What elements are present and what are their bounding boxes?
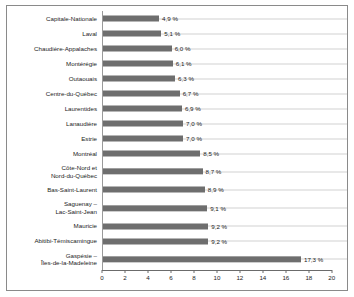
bar-row: Centre-du-Québec6,7 % <box>7 86 347 101</box>
x-axis-tick <box>124 270 125 273</box>
category-label: Laval <box>7 30 102 38</box>
bar-value-label: 8,9 % <box>205 186 224 193</box>
category-label: Capitale-Nationale <box>7 15 102 23</box>
x-axis-tick <box>262 270 263 273</box>
bar-value-label: 6,7 % <box>180 90 199 97</box>
bar <box>103 46 172 52</box>
x-axis-tick <box>216 270 217 273</box>
plot-cell: 6,7 % <box>102 86 347 101</box>
x-axis-tick <box>331 270 332 273</box>
bar <box>103 238 208 244</box>
bar-value-label: 4,9 % <box>159 15 178 22</box>
bar-container: 9,2 % <box>103 219 332 234</box>
category-label: Gaspésie – Îles-de-la-Madeleine <box>7 252 102 267</box>
bar <box>103 61 173 67</box>
plot-cell: 5,1 % <box>102 26 347 41</box>
bar-row: Chaudière-Appalaches6,0 % <box>7 41 347 56</box>
bar-value-label: 7,0 % <box>183 135 202 142</box>
bar-value-label: 7,0 % <box>183 120 202 127</box>
bar-container: 7,0 % <box>103 131 332 146</box>
bar-value-label: 8,7 % <box>203 168 222 175</box>
bar <box>103 151 200 157</box>
x-axis-tick-label: 10 <box>213 274 220 282</box>
x-axis-tick <box>170 270 171 273</box>
plot-rows: Capitale-Nationale4,9 %Laval5,1 %Chaudiè… <box>7 6 347 270</box>
plot-cell: 8,9 % <box>102 182 347 197</box>
plot-cell: 6,0 % <box>102 41 347 56</box>
bar-row: Outaouais6,3 % <box>7 71 347 86</box>
x-axis-tick <box>193 270 194 273</box>
x-axis-tick-label: 2 <box>123 274 126 282</box>
category-label: Côte-Nord et Nord-du-Québec <box>7 164 102 179</box>
x-axis-tick-label: 0 <box>100 274 103 282</box>
category-label: Montérégie <box>7 60 102 68</box>
figure: Capitale-Nationale4,9 %Laval5,1 %Chaudiè… <box>0 0 354 297</box>
plot-cell: 7,0 % <box>102 131 347 146</box>
bar-value-label: 6,3 % <box>175 75 194 82</box>
bar <box>103 136 183 142</box>
bar-container: 6,7 % <box>103 86 332 101</box>
bar <box>103 31 161 37</box>
category-label: Centre-du-Québec <box>7 90 102 98</box>
bar-value-label: 5,1 % <box>161 30 180 37</box>
x-axis-area: 02468101214161820 <box>7 270 347 290</box>
bar-container: 5,1 % <box>103 26 332 41</box>
bar-row: Bas-Saint-Laurent8,9 % <box>7 182 347 197</box>
plot-cell: 4,9 % <box>102 11 347 26</box>
plot-cell: 6,1 % <box>102 56 347 71</box>
bar-value-label: 17,3 % <box>301 256 323 263</box>
bar-row: Estrie7,0 % <box>7 131 347 146</box>
plot-cell: 6,3 % <box>102 71 347 86</box>
bar-row: Montréal8,5 % <box>7 146 347 161</box>
x-axis-tick-label: 14 <box>259 274 266 282</box>
bar-container: 8,9 % <box>103 182 332 197</box>
category-label: Outaouais <box>7 75 102 83</box>
plot-cell: 9,2 % <box>102 219 347 234</box>
bar-container: 6,3 % <box>103 71 332 86</box>
bar-value-label: 9,1 % <box>207 204 226 211</box>
category-label: Lanaudière <box>7 120 102 128</box>
bar-row: Lanaudière7,0 % <box>7 116 347 131</box>
bar-value-label: 8,5 % <box>200 150 219 157</box>
bar <box>103 106 182 112</box>
x-axis: 02468101214161820 <box>102 270 347 290</box>
bar-container: 6,1 % <box>103 56 332 71</box>
x-axis-tick-label: 20 <box>328 274 335 282</box>
category-label: Chaudière-Appalaches <box>7 45 102 53</box>
bar-value-label: 6,0 % <box>172 45 191 52</box>
plot-cell: 8,5 % <box>102 146 347 161</box>
bar-row: Abitibi-Témiscamingue9,2 % <box>7 234 347 249</box>
x-axis-tick <box>308 270 309 273</box>
bar <box>103 256 301 262</box>
bar-container: 6,0 % <box>103 41 332 56</box>
x-axis-tick <box>285 270 286 273</box>
plot-cell: 8,7 % <box>102 161 347 182</box>
plot-cell: 6,9 % <box>102 101 347 116</box>
bar-row: Côte-Nord et Nord-du-Québec8,7 % <box>7 161 347 182</box>
bar-container: 17,3 % <box>103 249 332 270</box>
x-axis-tick-label: 8 <box>192 274 195 282</box>
category-label: Mauricie <box>7 222 102 230</box>
bar <box>103 205 207 211</box>
bar <box>103 16 159 22</box>
x-axis-tick-label: 18 <box>305 274 312 282</box>
bar-row: Mauricie9,2 % <box>7 219 347 234</box>
bar <box>103 91 180 97</box>
bar-row: Laurentides6,9 % <box>7 101 347 116</box>
category-label: Laurentides <box>7 105 102 113</box>
plot-cell: 9,1 % <box>102 197 347 218</box>
bar <box>103 121 183 127</box>
category-label: Estrie <box>7 135 102 143</box>
x-axis-tick <box>102 270 103 273</box>
x-axis-tick-label: 6 <box>169 274 172 282</box>
category-label: Bas-Saint-Laurent <box>7 186 102 194</box>
bar <box>103 223 208 229</box>
bar-value-label: 9,2 % <box>208 223 227 230</box>
bar-container: 8,5 % <box>103 146 332 161</box>
bar-container: 6,9 % <box>103 101 332 116</box>
bar-row: Laval5,1 % <box>7 26 347 41</box>
bar-container: 8,7 % <box>103 161 332 182</box>
plot-cell: 7,0 % <box>102 116 347 131</box>
bar-container: 9,1 % <box>103 197 332 218</box>
category-label: Montréal <box>7 150 102 158</box>
